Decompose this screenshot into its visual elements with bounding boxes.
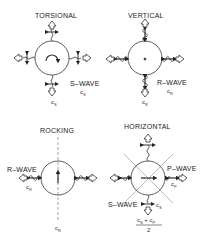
speed-subscript: S	[83, 92, 86, 97]
torsional-rotation-icon	[46, 55, 58, 61]
torsional-title: TORSIONAL	[35, 12, 77, 19]
horizontal-title: HORIZONTAL	[124, 123, 171, 130]
horizontal-fraction-numerator: cS + cP	[137, 217, 155, 225]
hollow-arrow-right-icon	[89, 174, 97, 182]
horizontal-fraction-denominator: 2	[147, 227, 150, 233]
speed-subscript: P	[153, 220, 156, 225]
hollow-arrow-up-icon	[141, 19, 149, 27]
hollow-arrow-down-icon	[144, 207, 152, 215]
torsional-foundation-circle	[35, 41, 69, 75]
rocking-panel	[19, 137, 97, 222]
horizontal-wave-speed-bottom: cS	[156, 202, 162, 210]
horizontal-wave-speed-right: cP	[171, 181, 177, 189]
speed-subscript: R	[29, 187, 32, 192]
hollow-arrow-right-icon	[176, 55, 184, 63]
vertical-title: VERTICAL	[128, 12, 164, 19]
vertical-wave-speed-right: cR	[167, 88, 173, 96]
vertical-center-dot	[144, 58, 146, 60]
horizontal-panel	[110, 134, 187, 225]
hollow-arrow-left-icon	[106, 55, 114, 63]
hollow-arrow-left-icon	[14, 54, 22, 62]
speed-subscript: S	[54, 102, 57, 107]
hollow-arrow-up-icon	[48, 21, 56, 29]
rocking-title: ROCKING	[40, 127, 74, 134]
hollow-arrow-right-icon	[179, 174, 187, 182]
vertical-wave-label: R–WAVE	[157, 79, 187, 86]
speed-subscript: R	[145, 102, 148, 107]
hollow-arrow-down-icon	[141, 89, 149, 97]
rocking-wave-speed-left: cR	[26, 184, 32, 192]
rocking-wave-label: R–WAVE	[7, 166, 37, 173]
horizontal-p-wave-label: P–WAVE	[167, 165, 197, 172]
hollow-arrow-down-icon	[48, 88, 56, 96]
diagram-canvas	[0, 0, 207, 241]
hollow-arrow-left-icon	[19, 174, 27, 182]
horizontal-s-wave-label: S–WAVE	[108, 201, 138, 208]
rocking-wave-speed-bottom: cR	[55, 225, 61, 233]
torsional-wave-speed-right: cS	[80, 89, 86, 97]
torsional-wave-label: S–WAVE	[70, 80, 100, 87]
speed-subscript: P	[174, 184, 177, 189]
torsional-wave-speed-bottom: cS	[51, 99, 57, 107]
hollow-arrow-up-icon	[144, 134, 152, 142]
speed-subscript: R	[58, 228, 61, 233]
speed-subscript: R	[170, 91, 173, 96]
speed-subscript: S	[159, 205, 162, 210]
plus-speed: + c	[143, 217, 153, 223]
hollow-arrow-right-icon	[83, 54, 91, 62]
vertical-wave-speed-bottom: cR	[142, 99, 148, 107]
hollow-arrow-left-icon	[110, 174, 118, 182]
